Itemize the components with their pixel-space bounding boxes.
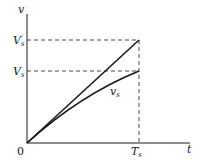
ts-label: Ts — [131, 146, 142, 159]
vs-prime-label: Vs′ — [13, 35, 23, 48]
diagram-canvas — [0, 0, 206, 163]
vs-label: Vs — [13, 66, 25, 79]
velocity-time-diagram: v t 0 Vs′ Vs vs Ts — [0, 0, 206, 163]
origin-label: 0 — [17, 146, 24, 157]
x-axis-label: t — [187, 144, 191, 155]
vs-curve — [27, 71, 139, 143]
y-axis-label: v — [18, 4, 24, 15]
curve-label: vs — [110, 86, 120, 99]
